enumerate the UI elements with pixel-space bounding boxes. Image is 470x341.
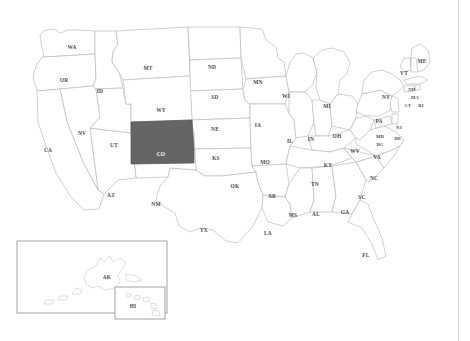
- label-AL: AL: [312, 211, 320, 217]
- state-NE[interactable]: [190, 89, 250, 120]
- label-MN: MN: [253, 79, 262, 85]
- state-OR[interactable]: [33, 54, 96, 91]
- hawaii-inset[interactable]: HI: [115, 287, 165, 319]
- label-MT: MT: [143, 65, 152, 71]
- state-KS[interactable]: [192, 118, 251, 149]
- label-ME: ME: [417, 58, 426, 64]
- label-OR: OR: [60, 77, 69, 83]
- label-VT: VT: [400, 70, 408, 76]
- state-AL[interactable]: [310, 166, 336, 212]
- state-CO[interactable]: [131, 120, 194, 164]
- label-ND: ND: [208, 64, 216, 70]
- label-WI: WI: [282, 93, 290, 99]
- label-OK: OK: [231, 183, 240, 189]
- state-OK[interactable]: [194, 148, 256, 176]
- label-FL: FL: [362, 252, 369, 258]
- label-GA: GA: [341, 209, 350, 215]
- label-NC: NC: [370, 175, 378, 181]
- label-AR: AR: [268, 193, 276, 199]
- label-TN: TN: [311, 181, 319, 187]
- us-map-figure: WA OR ID MT ND MN SD WI MI WY NV CA UT N…: [0, 0, 470, 341]
- state-MA[interactable]: [404, 76, 428, 84]
- label-NV: NV: [78, 130, 86, 136]
- label-PA: PA: [375, 118, 382, 124]
- state-IA[interactable]: [243, 76, 289, 104]
- page-edge-line: [458, 0, 459, 341]
- contiguous-states-group: [33, 27, 430, 260]
- state-DE[interactable]: [392, 114, 398, 124]
- label-DE: DE: [395, 136, 402, 141]
- label-NE: NE: [211, 126, 219, 132]
- state-WA[interactable]: [40, 29, 95, 57]
- label-KS: KS: [212, 155, 220, 161]
- label-MO: MO: [260, 159, 270, 165]
- label-IA: IA: [255, 122, 261, 128]
- label-IL: IL: [287, 138, 293, 144]
- state-MT[interactable]: [112, 27, 190, 80]
- state-RI[interactable]: [415, 85, 420, 90]
- label-MI: MI: [323, 103, 331, 109]
- label-NH: NH: [408, 87, 416, 92]
- label-OH: OH: [333, 133, 342, 139]
- us-map-svg: WA OR ID MT ND MN SD WI MI WY NV CA UT N…: [0, 0, 470, 341]
- label-MD: MD: [376, 134, 385, 139]
- label-DC: DC: [376, 142, 383, 147]
- label-CO: CO: [157, 151, 166, 157]
- state-NJ[interactable]: [390, 96, 399, 112]
- label-HI: HI: [130, 303, 137, 309]
- label-MA: MA: [411, 95, 420, 100]
- label-NJ: NJ: [396, 125, 403, 130]
- label-TX: TX: [200, 227, 208, 233]
- label-NY: NY: [382, 94, 390, 100]
- label-SD: SD: [211, 94, 218, 100]
- state-WI[interactable]: [286, 53, 317, 92]
- label-KY: KY: [324, 162, 333, 168]
- label-WY: WY: [156, 107, 166, 113]
- label-NM: NM: [151, 201, 160, 207]
- label-WV: WV: [350, 148, 360, 154]
- label-AK: AK: [103, 274, 112, 280]
- label-CA: CA: [44, 147, 52, 153]
- label-VA: VA: [373, 154, 381, 160]
- state-ND[interactable]: [188, 27, 241, 60]
- label-IN: IN: [308, 136, 314, 142]
- label-RI: RI: [418, 103, 424, 108]
- label-CT: CT: [405, 103, 412, 108]
- state-SD[interactable]: [190, 58, 243, 91]
- state-TX[interactable]: [156, 168, 263, 243]
- state-WY[interactable]: [123, 76, 192, 122]
- label-LA: LA: [264, 230, 272, 236]
- label-UT: UT: [110, 142, 118, 148]
- label-SC: SC: [358, 194, 365, 200]
- label-WA: WA: [67, 44, 76, 50]
- label-ID: ID: [97, 88, 103, 94]
- state-MN[interactable]: [240, 27, 286, 79]
- label-MS: MS: [289, 212, 298, 218]
- label-AZ: AZ: [107, 192, 115, 198]
